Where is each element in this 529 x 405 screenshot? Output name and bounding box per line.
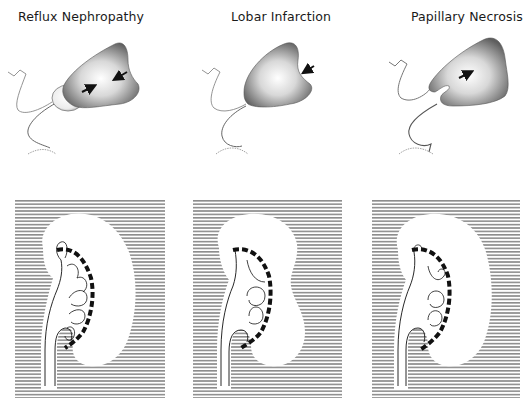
kidney-3d-reflux: [0, 30, 175, 165]
title-reflux-nephropathy: Reflux Nephropathy: [18, 9, 144, 24]
kidney-3d-papillary: [355, 30, 529, 165]
schematic-reflux: [15, 200, 165, 398]
arrow-icon: [306, 66, 314, 71]
kidney-body-shape: [244, 43, 312, 107]
schematic-papillary: [372, 200, 520, 398]
kidney-body-shape: [63, 43, 139, 108]
kidney-body-shape: [429, 38, 508, 106]
schematic-lobar: [193, 200, 342, 398]
title-papillary-necrosis: Papillary Necrosis: [411, 9, 523, 24]
kidney-3d-lobar: [180, 30, 355, 165]
title-lobar-infarction: Lobar Infarction: [231, 9, 331, 24]
